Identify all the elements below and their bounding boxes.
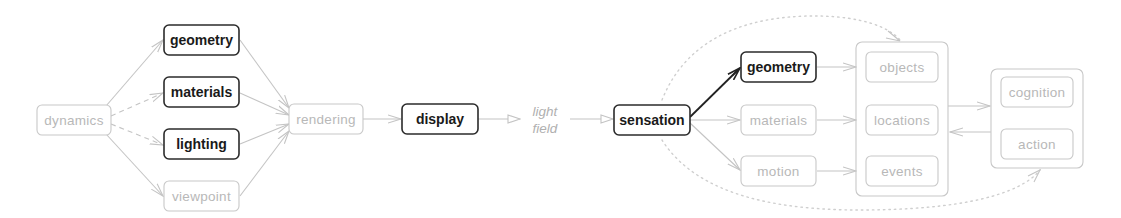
edge-dynamics-materials bbox=[111, 93, 163, 116]
node-geometry-percept: geometry bbox=[741, 52, 816, 82]
node-cognition: cognition bbox=[1001, 77, 1073, 107]
dotted-arc-top-arrowhead bbox=[886, 31, 900, 41]
node-materials-scene: materials bbox=[164, 77, 239, 107]
edge-geometry-rendering bbox=[240, 40, 289, 108]
node-lighting: lighting bbox=[164, 129, 239, 159]
group-percepts: objects locations events bbox=[856, 42, 948, 196]
edge-dynamics-viewpoint bbox=[106, 134, 163, 196]
node-label: action bbox=[1018, 137, 1056, 152]
node-geometry-scene: geometry bbox=[164, 25, 239, 55]
node-objects: objects bbox=[866, 52, 938, 82]
node-rendering: rendering bbox=[289, 104, 363, 134]
node-label: locations bbox=[874, 113, 930, 128]
node-label: sensation bbox=[619, 112, 684, 128]
node-label: events bbox=[881, 164, 923, 179]
light-field-line1: light bbox=[533, 104, 559, 119]
edge-materials-rendering bbox=[240, 93, 289, 115]
edge-sensation-geometry bbox=[690, 68, 740, 117]
node-label: geometry bbox=[747, 59, 810, 75]
light-field-line2: field bbox=[533, 121, 558, 136]
node-label: materials bbox=[750, 113, 807, 128]
node-materials-percept: materials bbox=[741, 105, 816, 135]
node-motion: motion bbox=[741, 156, 816, 186]
node-label: viewpoint bbox=[172, 189, 231, 204]
node-locations: locations bbox=[866, 105, 938, 135]
node-label: materials bbox=[171, 84, 233, 100]
edge-dynamics-lighting bbox=[111, 124, 163, 145]
edges-right bbox=[662, 16, 1040, 210]
node-label: motion bbox=[757, 164, 799, 179]
node-label: cognition bbox=[1009, 85, 1066, 100]
group-cognition-action: cognition action bbox=[991, 69, 1083, 168]
node-label: display bbox=[416, 111, 464, 127]
node-label: rendering bbox=[296, 112, 356, 127]
node-action: action bbox=[1001, 129, 1073, 159]
node-events: events bbox=[866, 156, 938, 186]
node-dynamics: dynamics bbox=[37, 105, 111, 135]
node-sensation: sensation bbox=[614, 105, 690, 135]
light-field-label: light field bbox=[533, 104, 559, 136]
node-label: objects bbox=[880, 60, 925, 75]
edge-sensation-motion bbox=[690, 123, 740, 170]
node-viewpoint: viewpoint bbox=[164, 181, 239, 211]
node-label: geometry bbox=[170, 32, 233, 48]
dotted-arc-bottom-arrowhead bbox=[1028, 170, 1040, 182]
edge-dynamics-geometry bbox=[106, 40, 163, 106]
node-label: dynamics bbox=[44, 113, 103, 128]
node-display: display bbox=[402, 104, 478, 134]
node-label: lighting bbox=[176, 136, 227, 152]
perception-pipeline-diagram: dynamics geometry materials lighting vie… bbox=[0, 0, 1121, 218]
